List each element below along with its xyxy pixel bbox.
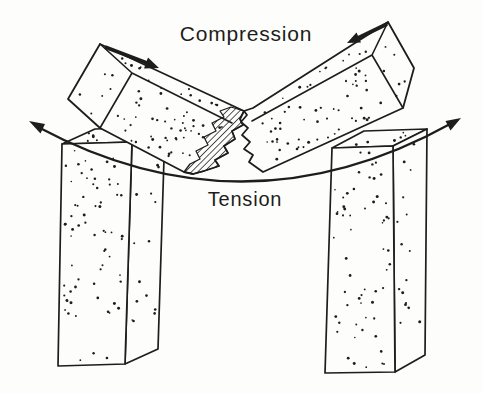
tension-arrowhead-left (29, 121, 45, 134)
tension-arrowhead-right (446, 118, 462, 131)
right-pier-front-face (325, 146, 395, 373)
left-pier (58, 127, 165, 366)
compression-label: Compression (180, 22, 313, 45)
beam-failure-diagram: Compression Tension (0, 0, 483, 393)
diagram-canvas: Compression Tension (0, 0, 483, 393)
tension-label: Tension (208, 188, 283, 210)
left-pier-front-face (58, 142, 132, 366)
right-pier (325, 129, 427, 373)
